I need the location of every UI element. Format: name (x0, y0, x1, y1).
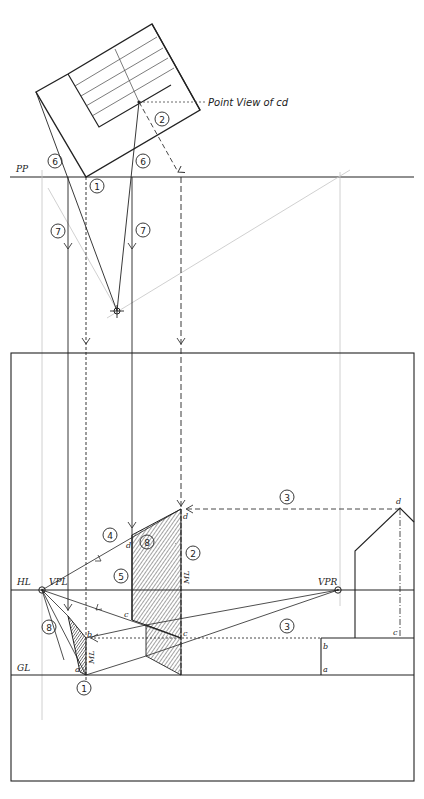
step-2-elev: 2 (190, 549, 196, 559)
ml-label-far: ML (182, 570, 191, 585)
plan-view: Point View of cd (36, 24, 289, 177)
plan-slope-lines (75, 37, 174, 116)
direction-ticks (95, 555, 102, 610)
step-3-bottom: 3 (284, 622, 290, 632)
perspective-frame (11, 353, 414, 781)
step-4: 4 (107, 531, 113, 541)
label-b-near: b (87, 630, 92, 639)
diagram-canvas: Point View of cd PP (0, 0, 424, 799)
perspective-diagram: Point View of cd PP (0, 0, 424, 799)
step-8-upper: 8 (144, 538, 150, 548)
label-d-left: d (126, 541, 131, 550)
step-5: 5 (118, 572, 124, 582)
gl-label: GL (17, 663, 30, 673)
label-c-ml: c (183, 629, 188, 638)
hl-label: HL (16, 577, 31, 587)
ml-label-near: ML (87, 650, 96, 665)
label-d-elev: d (396, 497, 401, 506)
step-6-left: 6 (52, 157, 58, 167)
label-d-ml: d (183, 512, 188, 521)
label-a-near: a (75, 665, 80, 674)
sloped-plane-upper (132, 509, 181, 638)
plan-inner-edge (68, 74, 171, 127)
point-labels: d d c c b a d c b a (75, 497, 401, 674)
step-6-right: 6 (140, 157, 146, 167)
step-2-plan: 2 (159, 115, 165, 125)
label-c-elev: c (393, 628, 398, 637)
step-1-plan: 1 (94, 182, 100, 192)
vpr-lines (86, 590, 338, 675)
pp-label: PP (15, 164, 29, 174)
vpr-label: VPR (318, 577, 338, 587)
step-7-left: 7 (55, 227, 61, 237)
step-7-right: 7 (140, 226, 146, 236)
step-1-ground: 1 (81, 684, 87, 694)
station-point-icon (110, 305, 124, 318)
step-3-top: 3 (284, 493, 290, 503)
label-b-elev: b (323, 642, 328, 651)
step-8-lower: 8 (46, 623, 52, 633)
sight-lines (36, 92, 139, 311)
vpl-label: VPL (49, 577, 68, 587)
point-view-label: Point View of cd (208, 97, 289, 108)
label-c-left: c (124, 610, 129, 619)
label-a-elev: a (323, 665, 328, 674)
